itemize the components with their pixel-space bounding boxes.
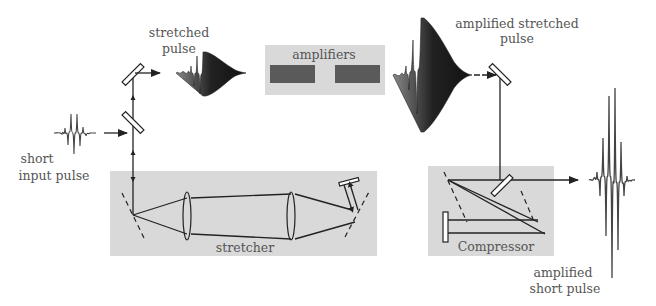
input-pulse-label-2: input pulse — [19, 168, 90, 183]
output-pulse-label-1: amplified — [533, 265, 592, 280]
gain-medium-1 — [270, 65, 315, 83]
stretched-pulse-label-1: stretched — [149, 25, 209, 40]
input-pulse-waveform — [54, 114, 96, 154]
compressor-label: Compressor — [458, 239, 535, 254]
stretched-pulse-label-2: pulse — [162, 41, 196, 56]
stretcher-label: stretcher — [216, 240, 274, 255]
amplified-stretched-pulse-waveform — [393, 18, 472, 132]
amplified-stretched-label-2: pulse — [500, 31, 534, 46]
compressor-end-mirror — [443, 212, 448, 242]
output-pulse-waveform — [589, 88, 635, 278]
input-pulse-label-1: short — [21, 151, 54, 166]
output-pulse-label-2: short pulse — [530, 281, 601, 296]
amplified-stretched-label-1: amplified stretched — [455, 16, 578, 31]
gain-medium-2 — [335, 65, 380, 83]
amplifiers-label: amplifiers — [292, 47, 355, 62]
beam-direction-up-icon — [131, 95, 136, 100]
cpa-diagram: short input pulse stretched pulse amplif… — [0, 0, 656, 306]
beam-direction-up-icon — [131, 150, 136, 155]
stretched-pulse-waveform — [176, 52, 246, 96]
